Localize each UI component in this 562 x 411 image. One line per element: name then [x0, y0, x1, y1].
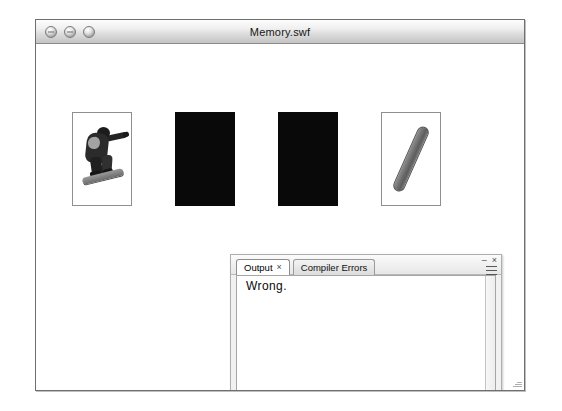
snowboarder-icon	[73, 113, 131, 205]
tab-output[interactable]: Output ×	[236, 259, 290, 275]
tab-compiler-errors-label: Compiler Errors	[301, 262, 368, 273]
output-vertical-scrollbar[interactable]	[485, 276, 495, 390]
zoom-window-button[interactable]	[83, 26, 95, 38]
output-panel-window-controls: – ×	[482, 256, 497, 265]
tab-compiler-errors[interactable]: Compiler Errors	[293, 259, 376, 275]
output-panel-header[interactable]: Output × Compiler Errors – ×	[231, 255, 501, 275]
close-icon	[48, 31, 54, 32]
window-title: Memory.swf	[36, 26, 524, 38]
zoom-icon	[86, 31, 92, 32]
memory-card-3[interactable]	[278, 112, 338, 206]
tab-output-close-icon[interactable]: ×	[277, 263, 282, 272]
output-console[interactable]: Wrong.	[236, 275, 496, 390]
game-stage: Output × Compiler Errors – × Wrong.	[36, 44, 524, 390]
minimize-window-button[interactable]	[64, 26, 76, 38]
window-controls-group	[45, 26, 95, 38]
output-panel-tabs: Output × Compiler Errors	[236, 259, 375, 275]
application-window: Memory.swf	[35, 19, 525, 391]
memory-card-4[interactable]	[381, 112, 441, 206]
minimize-icon	[67, 31, 73, 32]
panel-minimize-icon[interactable]: –	[482, 256, 487, 265]
panel-menu-icon[interactable]	[484, 266, 497, 275]
output-console-text: Wrong.	[246, 279, 287, 293]
memory-card-1[interactable]	[72, 112, 132, 206]
title-bar[interactable]: Memory.swf	[36, 20, 524, 44]
tab-output-label: Output	[244, 262, 273, 273]
output-panel: Output × Compiler Errors – × Wrong.	[230, 254, 502, 390]
memory-card-2[interactable]	[175, 112, 235, 206]
close-window-button[interactable]	[45, 26, 57, 38]
panel-close-icon[interactable]: ×	[492, 256, 497, 265]
window-resize-grip[interactable]	[512, 378, 522, 388]
snowboard-icon	[391, 125, 430, 194]
